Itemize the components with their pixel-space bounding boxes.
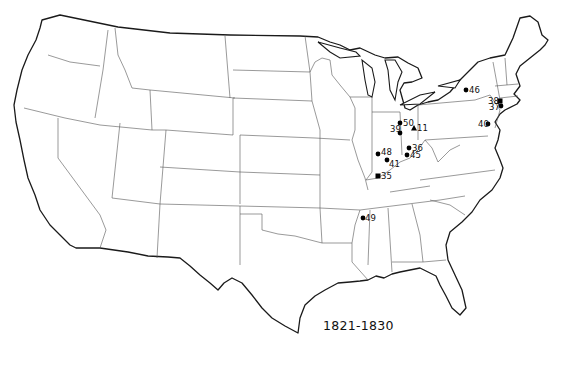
marker-label: 48 — [381, 147, 392, 157]
marker-label: 39 — [390, 124, 401, 134]
us-outline — [14, 15, 548, 333]
map-title: 1821-1830 — [323, 318, 394, 333]
marker-label: 37 — [489, 102, 500, 112]
circle-marker-icon — [405, 153, 410, 158]
marker-label: 49 — [365, 213, 376, 223]
map-marker-40: 40 — [478, 119, 490, 129]
marker-label: 45 — [410, 150, 421, 160]
us-map: 50391136454841354638374049 — [0, 0, 565, 371]
circle-marker-icon — [464, 88, 469, 93]
marker-label: 46 — [469, 85, 480, 95]
map-marker-39: 39 — [390, 124, 402, 135]
marker-label: 40 — [478, 119, 489, 129]
circle-marker-icon — [376, 152, 381, 157]
marker-label: 41 — [389, 159, 400, 169]
marker-label: 11 — [417, 123, 428, 133]
marker-label: 50 — [403, 118, 414, 128]
square-marker-icon — [376, 174, 381, 179]
marker-label: 35 — [381, 171, 392, 181]
